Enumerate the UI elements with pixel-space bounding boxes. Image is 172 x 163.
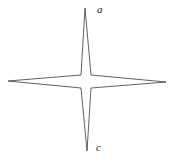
four-pointed-star-figure: a c xyxy=(0,0,172,163)
star-shape-svg xyxy=(0,0,172,163)
axis-label-c: c xyxy=(96,142,101,153)
axis-label-a: a xyxy=(97,4,103,15)
